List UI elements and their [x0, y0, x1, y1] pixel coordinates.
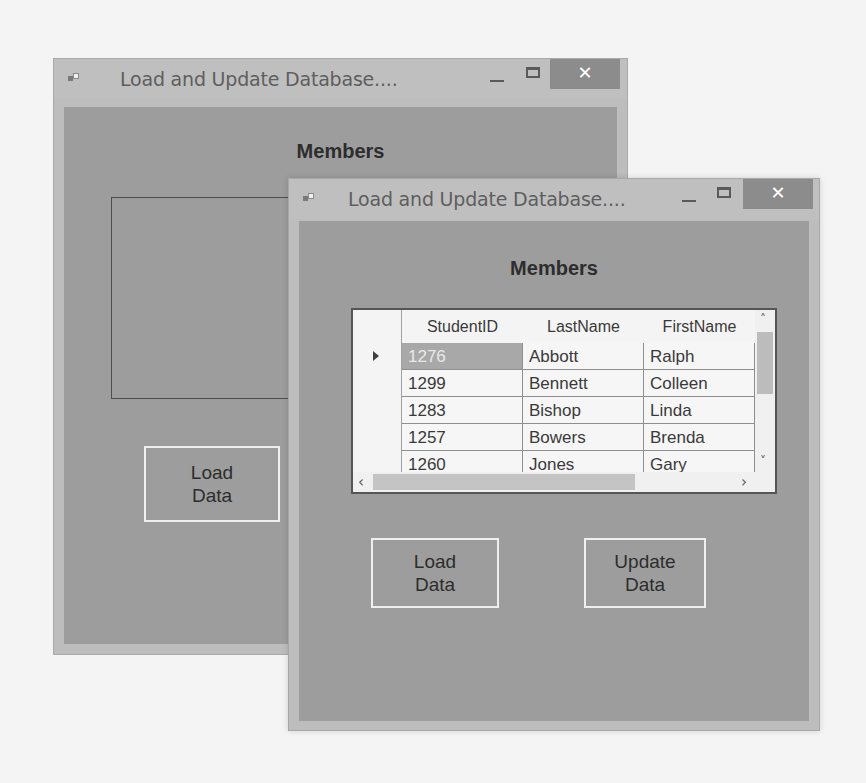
maximize-icon[interactable] [526, 67, 540, 78]
members-heading: Members [64, 140, 617, 163]
scroll-right-icon[interactable]: › [741, 473, 747, 491]
close-button[interactable]: ✕ [743, 179, 813, 209]
horizontal-scrollbar[interactable]: ‹ › [353, 472, 755, 492]
cell-firstname[interactable]: Linda [644, 397, 755, 424]
cell-firstname[interactable]: Ralph [644, 343, 755, 370]
cell-studentid[interactable]: 1299 [402, 370, 523, 397]
vertical-scroll-thumb[interactable] [757, 332, 773, 394]
cell-studentid[interactable]: 1276 [402, 343, 523, 370]
cell-lastname[interactable]: Bishop [523, 397, 644, 424]
cell-studentid[interactable]: 1283 [402, 397, 523, 424]
load-data-button[interactable]: Load Data [371, 538, 499, 608]
load-data-label-line1: Load [191, 461, 233, 484]
current-row-indicator-icon [373, 351, 379, 361]
load-data-label-line2: Data [192, 484, 232, 507]
back-window-titlebar[interactable]: Load and Update Database.... ✕ [54, 59, 627, 99]
members-heading: Members [299, 257, 809, 280]
maximize-icon[interactable] [717, 187, 731, 198]
scrollbar-corner [755, 472, 775, 492]
app-icon [303, 193, 315, 203]
load-data-label-line2: Data [415, 573, 455, 596]
cell-lastname[interactable]: Jones [523, 451, 644, 472]
scroll-left-icon[interactable]: ‹ [358, 473, 364, 491]
minimize-icon[interactable] [490, 80, 504, 82]
column-header-studentid[interactable]: StudentID [402, 310, 523, 343]
load-data-label-line1: Load [414, 550, 456, 573]
cell-lastname[interactable]: Bennett [523, 370, 644, 397]
scroll-up-icon[interactable]: ˄ [760, 312, 766, 326]
cell-lastname[interactable]: Bowers [523, 424, 644, 451]
update-data-label-line2: Data [625, 573, 665, 596]
scroll-down-icon[interactable]: ˅ [760, 454, 766, 468]
cell-studentid[interactable]: 1260 [402, 451, 523, 472]
cell-studentid[interactable]: 1257 [402, 424, 523, 451]
horizontal-scroll-thumb[interactable] [373, 474, 635, 490]
cell-firstname[interactable]: Brenda [644, 424, 755, 451]
cell-firstname[interactable]: Gary [644, 451, 755, 472]
minimize-icon[interactable] [682, 200, 696, 202]
app-icon [68, 73, 80, 83]
members-data-grid[interactable]: StudentID LastName FirstName 1276 Abbott… [351, 308, 777, 494]
cell-lastname[interactable]: Abbott [523, 343, 644, 370]
column-header-lastname[interactable]: LastName [523, 310, 644, 343]
load-data-button[interactable]: Load Data [144, 446, 280, 522]
window-title: Load and Update Database.... [348, 188, 625, 210]
update-data-button[interactable]: Update Data [584, 538, 706, 608]
front-window-client: Members StudentID LastName FirstName 127… [299, 221, 809, 721]
vertical-scrollbar[interactable]: ˄ ˅ [755, 310, 775, 472]
cell-firstname[interactable]: Colleen [644, 370, 755, 397]
front-window-titlebar[interactable]: Load and Update Database.... ✕ [289, 179, 819, 219]
window-title: Load and Update Database.... [120, 68, 397, 90]
update-data-label-line1: Update [614, 550, 675, 573]
row-header-column [353, 310, 402, 472]
front-window: Load and Update Database.... ✕ Members S… [288, 178, 820, 731]
column-header-firstname[interactable]: FirstName [644, 310, 755, 343]
close-button[interactable]: ✕ [550, 59, 620, 89]
